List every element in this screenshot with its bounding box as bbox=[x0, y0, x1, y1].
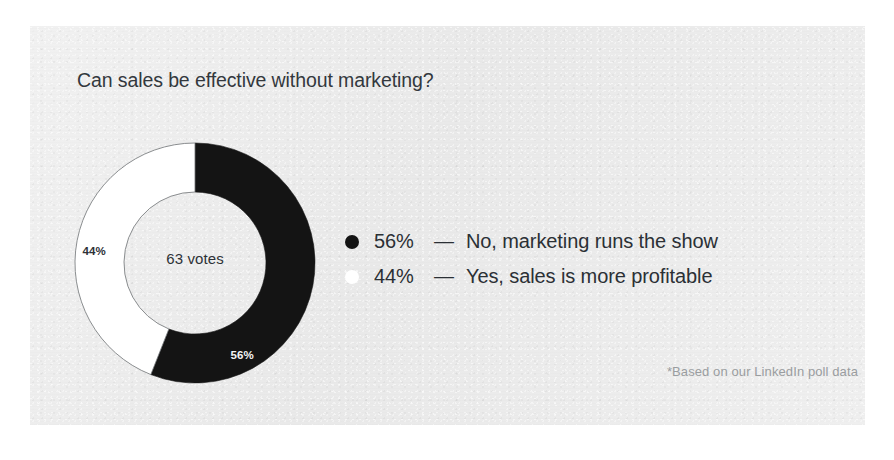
page-title: Can sales be effective without marketing… bbox=[77, 69, 434, 92]
legend-dash: — bbox=[434, 230, 454, 253]
legend-dash: — bbox=[434, 265, 454, 288]
chart-legend: 56% — No, marketing runs the show 44% — … bbox=[345, 224, 718, 294]
legend-item-no[interactable]: 56% — No, marketing runs the show bbox=[345, 224, 718, 259]
donut-center-votes: 63 votes bbox=[74, 250, 316, 267]
screenshot-root: Can sales be effective without marketing… bbox=[0, 0, 894, 460]
legend-percent: 56% bbox=[374, 230, 428, 253]
slice-label-56: 56% bbox=[230, 349, 253, 361]
legend-percent: 44% bbox=[374, 265, 428, 288]
legend-item-yes[interactable]: 44% — Yes, sales is more profitable bbox=[345, 259, 718, 294]
legend-swatch-light-icon bbox=[345, 270, 359, 284]
legend-label: Yes, sales is more profitable bbox=[466, 265, 713, 288]
legend-swatch-dark-icon bbox=[345, 235, 359, 249]
legend-label: No, marketing runs the show bbox=[466, 230, 718, 253]
donut-chart: 56% 44% 63 votes bbox=[74, 142, 316, 384]
footnote-source: *Based on our LinkedIn poll data bbox=[667, 364, 858, 379]
